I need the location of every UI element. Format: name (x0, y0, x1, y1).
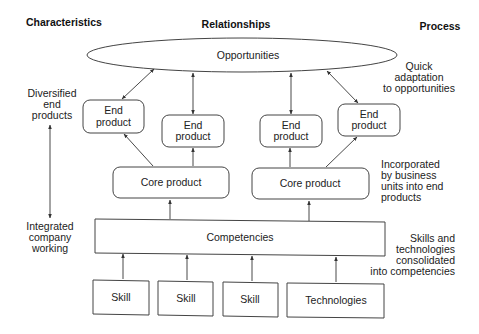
process-quick-adaptation: Quick adaptation to opportunities (383, 60, 455, 94)
svg-text:Skill: Skill (111, 291, 130, 303)
competencies-node: Competencies (95, 219, 385, 256)
svg-text:Skill: Skill (240, 293, 259, 305)
skill-box-3: Skill (223, 282, 278, 317)
header-characteristics: Characteristics (26, 16, 102, 28)
svg-text:to opportunities: to opportunities (383, 82, 455, 94)
svg-text:product: product (351, 119, 386, 131)
opportunities-label: Opportunities (217, 49, 279, 61)
core-competencies-diagram: Characteristics Relationships Process Op… (0, 0, 479, 334)
characteristic-diversified: Diversified end products (27, 87, 76, 121)
characteristic-integrated: Integrated company working (26, 220, 73, 254)
arrow-core2-end4 (326, 137, 357, 167)
svg-text:product: product (273, 130, 308, 142)
end-product-3: End product (260, 115, 322, 147)
arrow-core1-end1 (124, 134, 153, 166)
svg-text:products: products (32, 109, 72, 121)
svg-text:product: product (175, 130, 210, 142)
svg-text:Core product: Core product (280, 177, 341, 189)
technologies-box: Technologies (287, 283, 384, 318)
core-product-1: Core product (113, 167, 229, 198)
header-process: Process (420, 20, 461, 32)
svg-text:Technologies: Technologies (305, 294, 366, 306)
competencies-label: Competencies (206, 231, 273, 243)
header-relationships: Relationships (202, 18, 271, 30)
arrow-opp-end1 (122, 69, 154, 99)
svg-text:products: products (381, 191, 421, 203)
skill-box-1: Skill (93, 280, 149, 315)
arrow-opp-end4 (327, 71, 358, 103)
opportunities-node: Opportunities (87, 38, 397, 72)
svg-text:Core product: Core product (141, 176, 202, 188)
core-product-2: Core product (252, 168, 369, 199)
svg-text:into competencies: into competencies (370, 265, 455, 277)
svg-text:Skill: Skill (176, 292, 195, 304)
process-incorporated: Incorporated by business units into end … (381, 158, 444, 203)
end-product-2: End product (162, 115, 224, 147)
svg-text:End: End (104, 104, 123, 116)
skill-box-2: Skill (158, 281, 213, 316)
end-product-4: End product (338, 104, 400, 136)
end-product-1: End product (83, 100, 144, 133)
svg-text:working: working (31, 242, 68, 254)
svg-text:product: product (96, 116, 131, 128)
